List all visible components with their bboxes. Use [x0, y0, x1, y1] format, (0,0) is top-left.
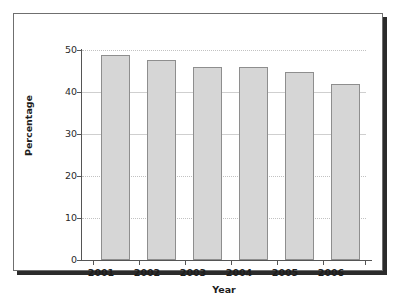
x-tick-label-2004: 2004	[217, 267, 261, 278]
x-axis-title: Year	[82, 284, 366, 295]
x-tick-label-2006: 2006	[309, 267, 353, 278]
plot-area	[82, 50, 366, 260]
x-tick-mark-4	[277, 261, 278, 265]
y-tick-label-20: 20	[49, 171, 77, 181]
y-tick-label-0: 0	[49, 255, 77, 265]
x-tick-mark-5	[323, 261, 324, 265]
x-tick-label-2001: 2001	[79, 267, 123, 278]
x-tick-mark-6	[365, 261, 366, 265]
x-axis-line	[81, 260, 372, 261]
gridline-50	[82, 50, 366, 51]
x-tick-mark-1	[139, 261, 140, 265]
bar-2005	[285, 72, 314, 260]
x-tick-label-2002: 2002	[125, 267, 169, 278]
y-axis-title: Percentage	[23, 86, 34, 166]
x-tick-mark-2	[185, 261, 186, 265]
bar-2001	[101, 55, 130, 260]
bar-2004	[239, 67, 268, 260]
bar-2002	[147, 60, 176, 260]
x-tick-label-2005: 2005	[263, 267, 307, 278]
y-tick-label-50: 50	[49, 45, 77, 55]
bar-2003	[193, 67, 222, 260]
y-axis-ticks: 50 40 30 20 10 0	[40, 50, 77, 260]
y-tick-label-10: 10	[49, 213, 77, 223]
y-tick-label-40: 40	[49, 87, 77, 97]
x-tick-label-2003: 2003	[171, 267, 215, 278]
chart-figure-frame: Percentage 50 40 30 20 10 0 2001 2002 2	[13, 13, 383, 271]
y-tick-label-30: 30	[49, 129, 77, 139]
x-tick-mark-3	[231, 261, 232, 265]
x-tick-mark-0	[93, 261, 94, 265]
bar-2006	[331, 84, 360, 260]
